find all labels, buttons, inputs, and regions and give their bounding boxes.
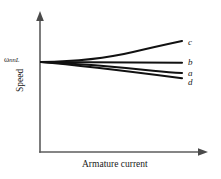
curve-label-d: d bbox=[188, 78, 193, 87]
x-axis-title: Armature current bbox=[82, 160, 148, 170]
y-axis-arrow-icon bbox=[36, 11, 44, 21]
curve-label-c: c bbox=[188, 38, 192, 47]
curve-label-b: b bbox=[188, 58, 193, 67]
curve-d bbox=[41, 62, 182, 78]
chart-plot-area bbox=[0, 0, 221, 179]
omega-subscript: nnL bbox=[9, 56, 19, 63]
speed-vs-armature-current-chart: ωnnL Armature current Speed c b a d bbox=[0, 0, 221, 179]
y-axis-title: Speed bbox=[16, 69, 26, 92]
curve-c bbox=[41, 41, 182, 62]
no-load-speed-marker-label: ωnnL bbox=[4, 56, 19, 64]
x-axis-arrow-icon bbox=[198, 148, 208, 156]
